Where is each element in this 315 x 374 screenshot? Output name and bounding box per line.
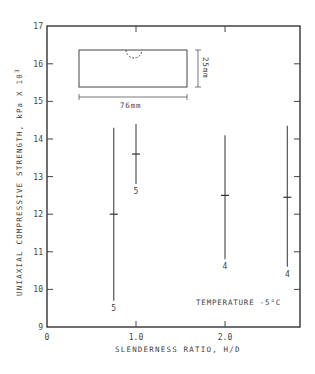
y-axis-ticks: 91011121314151617: [33, 22, 300, 332]
x-tick-label: 0: [45, 333, 50, 342]
temperature-annotation: TEMPERATURE -5°C: [196, 298, 281, 307]
sample-count-label: 5: [134, 187, 139, 196]
specimen-length-label: 76mm: [120, 101, 141, 110]
sample-count-label: 4: [285, 270, 290, 279]
y-tick-label: 12: [33, 210, 43, 219]
sample-count-label: 4: [223, 262, 228, 271]
x-axis-title: SLENDERNESS RATIO, H/D: [115, 345, 241, 354]
error-bars: 5544: [110, 124, 292, 313]
y-tick-label: 14: [33, 135, 43, 144]
x-tick-label: 1.0: [129, 333, 144, 342]
x-tick-label: 2.0: [218, 333, 233, 342]
error-bar: 5: [110, 128, 118, 313]
error-bar: 4: [283, 126, 291, 279]
specimen-height-label: 25mm: [201, 57, 210, 78]
y-tick-label: 10: [33, 285, 43, 294]
y-axis-title: UNIAXIAL COMPRESSIVE STRENGTH, kPa X 103: [13, 68, 24, 296]
error-bar: 5: [132, 124, 140, 196]
specimen-diagram: 76mm 25mm: [79, 50, 210, 110]
strength-chart: 91011121314151617 01.02.0 5544 76mm 25mm…: [0, 0, 315, 374]
y-tick-label: 16: [33, 60, 43, 69]
y-tick-label: 9: [38, 323, 43, 332]
y-tick-label: 15: [33, 97, 43, 106]
y-tick-label: 13: [33, 173, 43, 182]
sample-count-label: 5: [111, 304, 116, 313]
y-tick-label: 11: [33, 248, 43, 257]
y-tick-label: 17: [33, 22, 43, 31]
error-bar: 4: [221, 135, 229, 271]
plot-frame: [47, 26, 300, 327]
